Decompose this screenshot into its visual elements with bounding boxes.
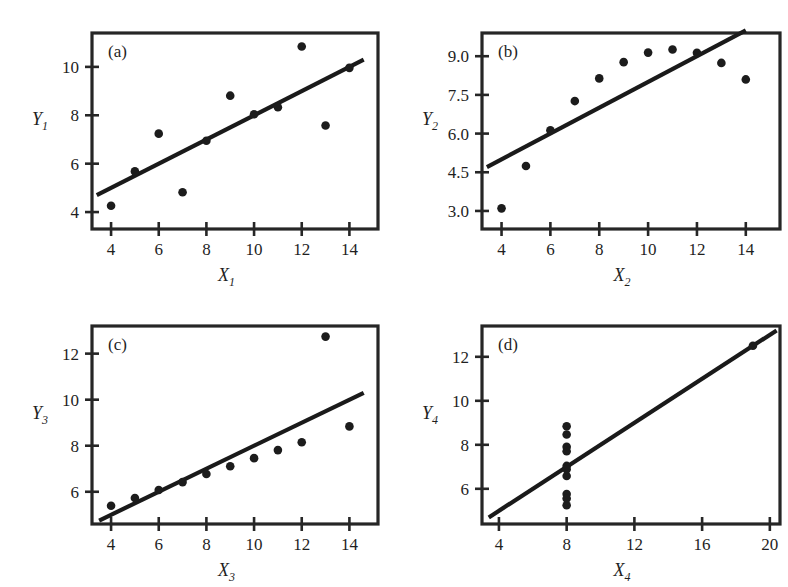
data-point bbox=[178, 478, 187, 487]
data-point bbox=[595, 74, 604, 83]
data-point bbox=[131, 167, 140, 176]
data-point bbox=[562, 465, 571, 474]
x-axis-title: X3 bbox=[217, 560, 235, 584]
scatter-panel-c: 468101214681012(c)X3Y3 bbox=[0, 293, 394, 587]
y-axis-title: Y2 bbox=[422, 109, 438, 133]
scatter-panel-a: 46810121446810(a)X1Y1 bbox=[0, 0, 394, 293]
panel-tag: (a) bbox=[108, 42, 127, 61]
data-point bbox=[749, 342, 758, 351]
x-tick-label: 20 bbox=[761, 535, 778, 554]
x-tick-label: 6 bbox=[546, 240, 555, 259]
x-tick-label: 8 bbox=[562, 535, 571, 554]
y-tick-label: 10 bbox=[62, 58, 79, 77]
data-point bbox=[250, 110, 259, 119]
x-tick-label: 10 bbox=[246, 240, 263, 259]
panel-tag: (c) bbox=[108, 335, 127, 354]
y-tick-label: 7.5 bbox=[448, 86, 469, 105]
y-axis-title: Y3 bbox=[32, 403, 48, 427]
y-tick-label: 8 bbox=[71, 106, 80, 125]
y-tick-label: 6 bbox=[71, 155, 80, 174]
data-point bbox=[562, 422, 571, 431]
data-point bbox=[202, 470, 211, 479]
data-point bbox=[131, 494, 140, 503]
data-point bbox=[321, 332, 330, 341]
scatter-panel-b: 4681012143.04.56.07.59.0(b)X2Y2 bbox=[394, 0, 788, 293]
y-axis-title: Y1 bbox=[32, 109, 48, 133]
y-tick-label: 8 bbox=[461, 436, 470, 455]
plot-frame bbox=[92, 33, 378, 229]
x-tick-label: 4 bbox=[107, 535, 116, 554]
y-tick-label: 10 bbox=[452, 392, 469, 411]
data-point bbox=[178, 188, 187, 197]
x-tick-label: 12 bbox=[626, 535, 643, 554]
panel-tag: (b) bbox=[498, 42, 518, 61]
plot-frame bbox=[482, 33, 780, 229]
data-point bbox=[546, 126, 555, 135]
x-tick-label: 14 bbox=[737, 240, 755, 259]
x-tick-label: 12 bbox=[688, 240, 705, 259]
x-tick-label: 12 bbox=[293, 535, 310, 554]
x-tick-label: 8 bbox=[202, 240, 211, 259]
data-point bbox=[742, 75, 751, 84]
x-axis-title: X4 bbox=[613, 560, 631, 584]
data-point bbox=[571, 97, 580, 106]
data-point bbox=[154, 486, 163, 495]
data-point bbox=[202, 136, 211, 145]
data-point bbox=[693, 49, 702, 58]
x-tick-label: 6 bbox=[154, 535, 163, 554]
x-tick-label: 10 bbox=[640, 240, 657, 259]
x-tick-label: 10 bbox=[246, 535, 263, 554]
data-point bbox=[522, 162, 531, 171]
data-point bbox=[562, 442, 571, 451]
x-tick-label: 4 bbox=[107, 240, 116, 259]
x-tick-label: 12 bbox=[293, 240, 310, 259]
y-tick-label: 10 bbox=[62, 391, 79, 410]
y-tick-label: 6.0 bbox=[448, 125, 469, 144]
data-point bbox=[226, 462, 235, 471]
y-tick-label: 6 bbox=[71, 483, 80, 502]
data-point bbox=[107, 201, 116, 210]
x-tick-label: 8 bbox=[202, 535, 211, 554]
anscombe-quartet-figure: 46810121446810(a)X1Y14681012143.04.56.07… bbox=[0, 0, 788, 587]
data-point bbox=[297, 42, 306, 51]
y-tick-label: 6 bbox=[461, 480, 470, 499]
data-point bbox=[562, 494, 571, 503]
data-point bbox=[717, 59, 726, 68]
regression-line bbox=[489, 330, 777, 517]
y-tick-label: 3.0 bbox=[448, 202, 469, 221]
scatter-panel-d: 48121620681012(d)X4Y4 bbox=[394, 293, 788, 587]
data-point bbox=[274, 103, 283, 112]
data-point bbox=[226, 91, 235, 100]
data-point bbox=[619, 58, 628, 67]
x-tick-label: 16 bbox=[694, 535, 711, 554]
regression-line bbox=[487, 30, 746, 167]
y-tick-label: 4.5 bbox=[448, 163, 469, 182]
data-point bbox=[562, 430, 571, 439]
y-tick-label: 12 bbox=[62, 345, 79, 364]
panel-tag: (d) bbox=[498, 335, 518, 354]
x-tick-label: 14 bbox=[341, 240, 359, 259]
data-point bbox=[321, 121, 330, 130]
x-tick-label: 4 bbox=[497, 240, 506, 259]
data-point bbox=[154, 129, 163, 138]
x-axis-title: X1 bbox=[217, 265, 235, 289]
data-point bbox=[250, 454, 259, 463]
data-point bbox=[107, 502, 116, 511]
data-point bbox=[297, 438, 306, 447]
data-point bbox=[345, 64, 354, 73]
data-point bbox=[668, 45, 677, 54]
y-axis-title: Y4 bbox=[422, 403, 438, 427]
regression-line bbox=[99, 393, 364, 521]
x-tick-label: 14 bbox=[341, 535, 359, 554]
x-tick-label: 8 bbox=[595, 240, 604, 259]
y-tick-label: 8 bbox=[71, 437, 80, 456]
x-tick-label: 4 bbox=[495, 535, 504, 554]
x-tick-label: 6 bbox=[154, 240, 163, 259]
data-point bbox=[345, 422, 354, 431]
data-point bbox=[274, 446, 283, 455]
x-axis-title: X2 bbox=[613, 265, 631, 289]
y-tick-label: 4 bbox=[71, 203, 80, 222]
y-tick-label: 12 bbox=[452, 348, 469, 367]
y-tick-label: 9.0 bbox=[448, 47, 469, 66]
data-point bbox=[497, 204, 506, 213]
